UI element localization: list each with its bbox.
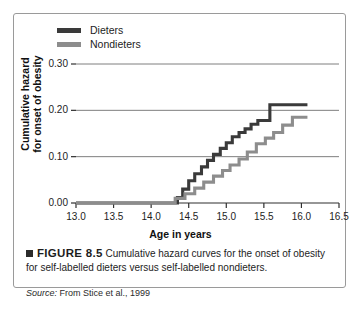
x-tick-label: 15.5 [248,211,280,222]
y-axis-title-line1: Cumulative hazard [19,44,31,164]
x-tick-label: 15.0 [210,211,242,222]
y-axis-title-line2: for onset of obesity [31,44,43,164]
source-text: From Stice et al., 1999 [60,288,151,298]
figure-caption: FIGURE 8.5 Cumulative hazard curves for … [26,247,336,274]
filled-square-icon [26,250,33,257]
x-axis-title: Age in years [14,228,347,240]
figure-source: Source: From Stice et al., 1999 [26,288,150,298]
plot-area: 0.000.100.200.30 13.013.514.014.515.015.… [14,14,347,246]
x-tick-label: 16.5 [323,211,355,222]
y-tick-label: 0.00 [36,197,68,208]
x-tick-label: 16.0 [285,211,317,222]
y-axis-title: Cumulative hazard for onset of obesity [19,44,43,164]
figure-number: FIGURE 8.5 [37,247,103,259]
x-tick-label: 14.5 [173,211,205,222]
x-tick-label: 13.0 [60,211,92,222]
x-tick-label: 13.5 [98,211,130,222]
source-word: Source: [26,288,57,298]
figure-card: Dieters Nondieters 0.000.100.200.30 13.0… [13,13,346,288]
x-tick-label: 14.0 [135,211,167,222]
